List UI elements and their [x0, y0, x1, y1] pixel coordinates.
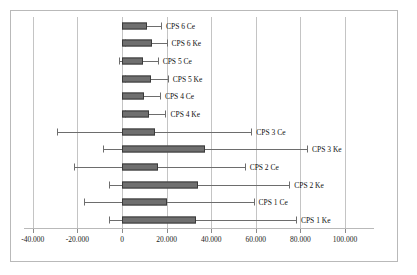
x-tick-label: -40.000 — [21, 235, 44, 244]
error-bar-cap-high — [251, 128, 252, 135]
series-row: CPS 2 Ke — [24, 176, 374, 194]
x-tick-label: 0 — [120, 235, 124, 244]
bar — [122, 146, 205, 153]
category-label: CPS 1 Ke — [298, 216, 331, 225]
bar — [122, 111, 149, 118]
category-label: CPS 1 Ce — [256, 198, 288, 207]
x-tick-0 — [122, 229, 123, 233]
bar — [122, 22, 147, 29]
category-label: CPS 5 Ke — [170, 74, 203, 83]
bar — [122, 93, 144, 100]
x-tick-80 — [300, 229, 301, 233]
error-bar-cap-high — [165, 111, 166, 118]
error-bar-cap-high — [245, 164, 246, 171]
series-row: CPS 4 Ce — [24, 88, 374, 106]
series-row: CPS 6 Ke — [24, 35, 374, 53]
bar — [122, 164, 158, 171]
bar — [122, 40, 152, 47]
error-bar-cap-high — [161, 22, 162, 29]
x-tick-60 — [256, 229, 257, 233]
error-bar-cap-low — [109, 217, 110, 224]
x-tick-40 — [211, 229, 212, 233]
error-bar-cap-high — [307, 146, 308, 153]
bar — [122, 128, 155, 135]
error-bar-cap-high — [296, 217, 297, 224]
error-bar-cap-low — [74, 164, 75, 171]
error-bar-line — [84, 202, 253, 203]
error-bar-cap-low — [109, 181, 110, 188]
error-bar-line — [74, 167, 245, 168]
category-label: CPS 3 Ce — [253, 127, 285, 136]
error-bar-cap-high — [167, 40, 168, 47]
error-bar-cap-low — [57, 128, 58, 135]
series-row: CPS 1 Ce — [24, 194, 374, 212]
category-label: CPS 6 Ce — [163, 21, 195, 30]
x-tick-label: 100.000 — [333, 235, 357, 244]
series-row: CPS 5 Ce — [24, 52, 374, 70]
x-tick-label: 20.000 — [156, 235, 177, 244]
error-bar-cap-high — [168, 75, 169, 82]
x-tick-100 — [345, 229, 346, 233]
category-label: CPS 4 Ce — [162, 92, 194, 101]
series-row: CPS 2 Ce — [24, 158, 374, 176]
bar — [122, 58, 143, 65]
bar — [122, 199, 167, 206]
category-label: CPS 2 Ke — [291, 180, 324, 189]
series-row: CPS 1 Ke — [24, 211, 374, 229]
chart-screenshot: -40.000-20.000020.00040.00060.00080.0001… — [0, 0, 417, 275]
x-tick-label: 80.000 — [290, 235, 311, 244]
series-row: CPS 6 Ce — [24, 17, 374, 35]
bar — [122, 217, 196, 224]
bar — [122, 75, 151, 82]
x-tick-20 — [167, 229, 168, 233]
category-label: CPS 3 Ke — [309, 145, 342, 154]
series-row: CPS 3 Ke — [24, 141, 374, 159]
x-tick-label: 40.000 — [201, 235, 222, 244]
error-bar-cap-high — [158, 58, 159, 65]
x-tick--20 — [77, 229, 78, 233]
error-bar-cap-low — [103, 146, 104, 153]
series-row: CPS 4 Ke — [24, 105, 374, 123]
error-bar-cap-low — [119, 58, 120, 65]
category-label: CPS 6 Ke — [169, 39, 202, 48]
category-label: CPS 5 Ce — [160, 57, 192, 66]
error-bar-cap-high — [160, 93, 161, 100]
x-tick--40 — [33, 229, 34, 233]
x-tick-label: 60.000 — [245, 235, 266, 244]
error-bar-cap-high — [254, 199, 255, 206]
series-row: CPS 5 Ke — [24, 70, 374, 88]
series-row: CPS 3 Ce — [24, 123, 374, 141]
x-tick-label: -20.000 — [66, 235, 89, 244]
bar — [122, 181, 198, 188]
category-label: CPS 4 Ke — [167, 110, 200, 119]
plot-area: -40.000-20.000020.00040.00060.00080.0001… — [24, 17, 374, 229]
category-label: CPS 2 Ce — [247, 163, 279, 172]
error-bar-cap-high — [289, 181, 290, 188]
error-bar-cap-low — [84, 199, 85, 206]
